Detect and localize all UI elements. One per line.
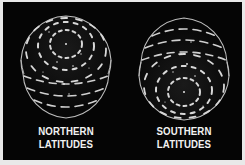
southern-label-line1: SOUTHERN [133,125,234,138]
southern-label-line2: LATITUDES [133,138,234,151]
southern-globe-icon [125,2,243,124]
northern-label-line1: NORTHERN [15,125,116,138]
northern-globe [7,2,125,124]
southern-globe [125,2,243,124]
figure-panel: NORTHERN LATITUDES SOUTHERN LATITUDES [3,2,242,160]
southern-label: SOUTHERN LATITUDES [133,125,234,151]
northern-globe-icon [7,2,125,124]
northern-label: NORTHERN LATITUDES [15,125,116,151]
northern-label-line2: LATITUDES [15,138,116,151]
